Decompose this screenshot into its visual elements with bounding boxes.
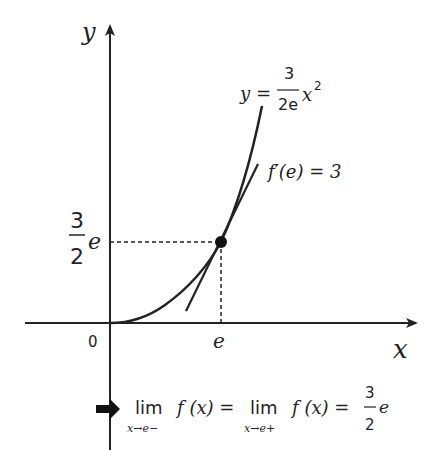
svg-text:f (x) =: f (x) =	[175, 397, 234, 418]
svg-text:y =: y =	[239, 83, 271, 104]
parabola-curve	[110, 106, 262, 323]
svg-text:x→e−: x→e−	[127, 422, 158, 435]
svg-text:3: 3	[70, 208, 84, 233]
svg-text:x: x	[302, 84, 312, 105]
svg-text:x→e+: x→e+	[244, 422, 275, 435]
svg-text:f (x) =: f (x) =	[290, 397, 349, 418]
y-axis-label: y	[81, 18, 96, 46]
limit-diagram: y x 0 e 3 2 e y = 3 2e x 2 f′(e) = 3 lim…	[0, 0, 437, 450]
svg-text:2: 2	[365, 416, 375, 434]
svg-text:2: 2	[70, 244, 84, 269]
svg-text:3: 3	[284, 64, 294, 83]
y-tick-label: 3 2 e	[69, 208, 101, 269]
x-axis-label: x	[393, 334, 408, 364]
svg-text:e: e	[379, 397, 389, 417]
limit-conclusion: lim x→e− f (x) = lim x→e+ f (x) = 3 2 e	[96, 384, 389, 435]
curve-equation-label: y = 3 2e x 2	[239, 64, 322, 114]
right-arrow-icon	[96, 399, 120, 419]
svg-text:e: e	[88, 229, 101, 254]
x-tick-label-e: e	[213, 329, 225, 353]
origin-label: 0	[88, 333, 98, 351]
svg-text:3: 3	[365, 384, 375, 402]
svg-text:lim: lim	[135, 397, 163, 418]
svg-text:2: 2	[314, 79, 322, 93]
derivative-label: f′(e) = 3	[266, 161, 341, 182]
svg-text:2e: 2e	[278, 95, 298, 114]
tangent-point	[215, 236, 227, 248]
svg-text:lim: lim	[250, 397, 278, 418]
